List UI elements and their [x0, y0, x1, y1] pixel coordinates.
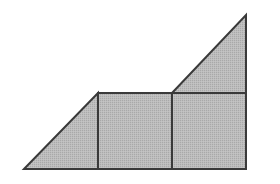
- shapes-group: [24, 15, 246, 169]
- left-triangle: [24, 93, 98, 169]
- top-triangle: [172, 15, 246, 93]
- composite-shape-diagram: [0, 0, 280, 184]
- right-square: [172, 93, 246, 169]
- middle-square: [98, 93, 172, 169]
